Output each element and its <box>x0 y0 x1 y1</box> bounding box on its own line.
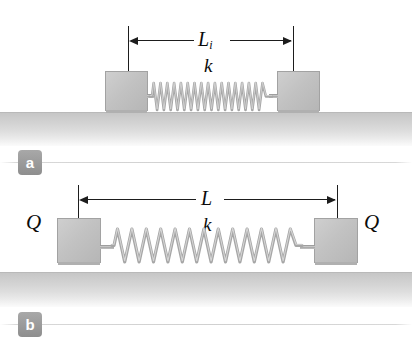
dimension-arrowhead-left-a <box>129 37 138 45</box>
spring-coil-path-b <box>112 229 302 262</box>
ground-band-a <box>0 113 412 146</box>
dimension-symbol-a: L <box>198 28 209 50</box>
block-right-a <box>277 71 320 111</box>
block-right-b <box>314 218 358 263</box>
panel-a: Li k a <box>0 0 412 178</box>
panel-badge-a: a <box>18 150 42 175</box>
spring-constant-label-a: k <box>204 56 212 75</box>
dimension-arrowhead-left-b <box>79 196 88 204</box>
caption-rule-b <box>0 324 412 325</box>
dimension-label-a: Li <box>198 29 212 51</box>
dimension-label-b: L <box>201 188 212 210</box>
caption-row-b: b <box>0 312 412 338</box>
caption-rule-a <box>0 162 412 163</box>
panel-badge-b: b <box>18 312 42 337</box>
extension-line-left-a <box>128 26 129 71</box>
spring-a <box>150 80 272 113</box>
charge-label-right-b: Q <box>364 212 379 233</box>
spring-b <box>112 225 302 266</box>
panel-b: L k Q Q b <box>0 178 412 351</box>
dimension-arrowhead-right-a <box>283 37 292 45</box>
caption-row-a: a <box>0 150 412 176</box>
charge-label-left-b: Q <box>26 212 41 233</box>
ground-band-b <box>0 273 412 307</box>
block-left-a <box>105 71 148 111</box>
extension-line-right-a <box>293 26 294 71</box>
dimension-subscript-a: i <box>209 38 212 52</box>
dimension-arrowhead-right-b <box>327 196 336 204</box>
block-left-b <box>57 218 101 263</box>
figure-canvas: Li k a <box>0 0 412 351</box>
dimension-symbol-b: L <box>201 187 212 209</box>
